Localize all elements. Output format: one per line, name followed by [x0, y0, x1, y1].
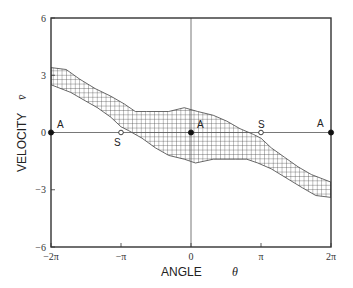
- point-label: A: [57, 119, 64, 130]
- y-tick-label: −3: [35, 184, 46, 195]
- point-label: S: [258, 119, 265, 130]
- x-tick-label: π: [258, 251, 263, 262]
- saddle-point: [119, 130, 124, 135]
- y-tick-label: −6: [35, 242, 46, 253]
- svg-text:v̄: v̄: [15, 94, 29, 100]
- x-tick-label: −2π: [43, 251, 59, 262]
- y-axis-title: VELOCITY v̄: [15, 94, 29, 172]
- attractor-point: [188, 130, 193, 135]
- x-tick-label: 2π: [326, 251, 336, 262]
- attractor-point: [48, 130, 53, 135]
- saddle-point: [259, 130, 264, 135]
- y-tick-label: 6: [41, 13, 46, 24]
- svg-text:θ: θ: [232, 265, 238, 279]
- y-tick-label: 3: [41, 70, 46, 81]
- x-tick-label: 0: [189, 251, 194, 262]
- x-tick-label: −π: [116, 251, 127, 262]
- point-label: S: [114, 137, 121, 148]
- phase-plot: −2π−π0π2π630−3−6 ASASA ANGLE θ VELOCITY …: [0, 0, 353, 288]
- svg-text:VELOCITY: VELOCITY: [15, 113, 29, 172]
- point-label: A: [317, 118, 324, 129]
- y-tick-label: 0: [41, 127, 46, 138]
- svg-text:ANGLE: ANGLE: [161, 265, 202, 279]
- attractor-point: [328, 130, 333, 135]
- x-axis-title: ANGLE θ: [161, 265, 238, 279]
- point-label: A: [197, 119, 204, 130]
